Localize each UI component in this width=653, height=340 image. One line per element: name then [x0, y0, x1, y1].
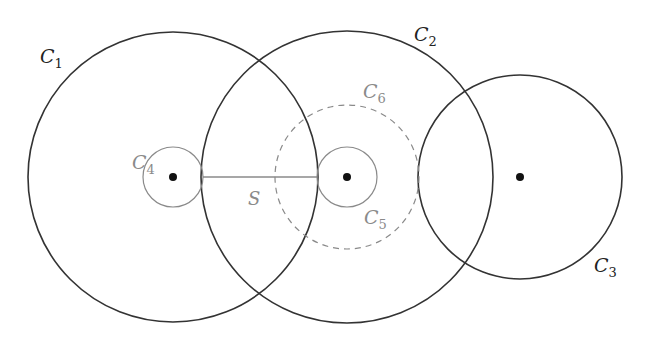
label-c5: C5	[364, 206, 387, 232]
label-segment-s: S	[248, 188, 260, 209]
center-1-point	[169, 173, 177, 181]
label-c1: C1	[40, 45, 63, 71]
label-c3: C3	[594, 254, 617, 280]
circles-layer	[28, 31, 622, 323]
label-c6: C6	[363, 80, 386, 106]
center-2-point	[343, 173, 351, 181]
circles-diagram: C1C2C3C4C5C6S	[0, 0, 653, 340]
label-c2: C2	[414, 23, 437, 49]
labels-layer: C1C2C3C4C5C6S	[40, 23, 617, 280]
center-3-point	[516, 173, 524, 181]
